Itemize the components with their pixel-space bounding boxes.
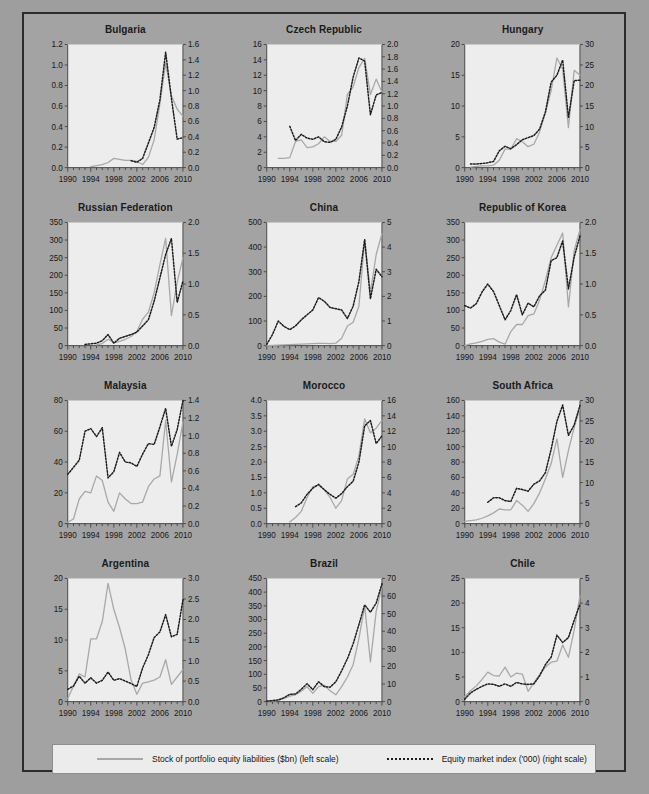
- figure-page: Bulgaria0.00.20.40.60.81.01.20.00.20.40.…: [0, 0, 649, 794]
- svg-text:15: 15: [585, 102, 595, 111]
- svg-text:1.0: 1.0: [585, 280, 597, 289]
- svg-text:0: 0: [387, 698, 392, 707]
- svg-text:1990: 1990: [257, 175, 276, 184]
- svg-text:2: 2: [585, 648, 590, 657]
- svg-text:25: 25: [585, 61, 595, 70]
- svg-text:2006: 2006: [548, 175, 567, 184]
- panel-title: Hungary: [423, 24, 622, 35]
- svg-text:5: 5: [456, 133, 461, 142]
- svg-text:2: 2: [387, 292, 392, 301]
- svg-text:0: 0: [456, 698, 461, 707]
- chart-panel: Morocco0.00.51.01.52.02.53.03.54.0024681…: [225, 374, 424, 552]
- svg-text:10: 10: [585, 123, 595, 132]
- svg-text:2002: 2002: [326, 353, 345, 362]
- svg-text:2010: 2010: [174, 531, 193, 540]
- svg-text:6: 6: [387, 473, 392, 482]
- svg-text:1998: 1998: [105, 353, 124, 362]
- svg-text:1998: 1998: [105, 175, 124, 184]
- svg-text:80: 80: [54, 396, 64, 405]
- svg-text:20: 20: [451, 599, 461, 608]
- svg-text:4: 4: [257, 133, 262, 142]
- svg-text:200: 200: [49, 271, 63, 280]
- plot-area: 0204060800.00.20.40.60.81.01.21.41990199…: [26, 394, 225, 544]
- svg-text:350: 350: [248, 602, 262, 611]
- svg-text:2002: 2002: [525, 709, 544, 718]
- svg-text:2002: 2002: [128, 709, 147, 718]
- svg-text:2006: 2006: [350, 531, 369, 540]
- chart-panel: Hungary051015200510152025301990199419982…: [423, 18, 622, 196]
- svg-text:0.8: 0.8: [188, 102, 200, 111]
- svg-text:150: 150: [447, 289, 461, 298]
- svg-text:10: 10: [451, 102, 461, 111]
- svg-text:1.6: 1.6: [188, 40, 200, 49]
- svg-text:16: 16: [387, 396, 397, 405]
- svg-text:1.4: 1.4: [387, 77, 399, 86]
- panel-title: Argentina: [26, 558, 225, 569]
- svg-text:2010: 2010: [174, 175, 193, 184]
- solid-line-swatch-icon: [97, 754, 143, 764]
- svg-text:1998: 1998: [502, 353, 521, 362]
- plot-area: 0.00.20.40.60.81.01.20.00.20.40.60.81.01…: [26, 38, 225, 188]
- svg-text:100: 100: [248, 670, 262, 679]
- svg-text:8: 8: [387, 458, 392, 467]
- svg-text:0.8: 0.8: [387, 114, 399, 123]
- chart-panel: Russian Federation0501001502002503003500…: [26, 196, 225, 374]
- svg-text:0.8: 0.8: [51, 81, 63, 90]
- svg-text:0.0: 0.0: [387, 164, 399, 173]
- svg-text:1.4: 1.4: [188, 56, 200, 65]
- svg-text:40: 40: [451, 489, 461, 498]
- svg-text:1.0: 1.0: [188, 657, 200, 666]
- svg-text:1994: 1994: [280, 531, 299, 540]
- svg-text:5: 5: [585, 143, 590, 152]
- svg-text:2002: 2002: [326, 531, 345, 540]
- svg-text:450: 450: [248, 574, 262, 583]
- svg-text:0.4: 0.4: [51, 123, 63, 132]
- svg-text:1.0: 1.0: [387, 102, 399, 111]
- panel-title: Malaysia: [26, 380, 225, 391]
- svg-text:30: 30: [585, 40, 595, 49]
- svg-text:3.5: 3.5: [250, 412, 262, 421]
- legend-cell: Stock of portfolio equity liabilities ($…: [26, 730, 622, 770]
- svg-text:2.0: 2.0: [188, 615, 200, 624]
- svg-text:0: 0: [585, 164, 590, 173]
- svg-text:300: 300: [49, 236, 63, 245]
- svg-text:1.0: 1.0: [51, 61, 63, 70]
- svg-text:3: 3: [387, 268, 392, 277]
- svg-text:1994: 1994: [280, 353, 299, 362]
- svg-text:80: 80: [451, 458, 461, 467]
- svg-text:1998: 1998: [303, 175, 322, 184]
- svg-text:4.0: 4.0: [250, 396, 262, 405]
- svg-text:40: 40: [387, 627, 397, 636]
- svg-text:1.2: 1.2: [188, 71, 200, 80]
- svg-text:0.2: 0.2: [188, 502, 200, 511]
- svg-text:100: 100: [447, 443, 461, 452]
- plot-area: 0510152025012345199019941998200220062010: [423, 572, 622, 722]
- svg-text:0.4: 0.4: [188, 133, 200, 142]
- svg-text:250: 250: [447, 254, 461, 263]
- svg-text:0.5: 0.5: [250, 504, 262, 513]
- chart-panel: Malaysia0204060800.00.20.40.60.81.01.21.…: [26, 374, 225, 552]
- svg-text:20: 20: [585, 81, 595, 90]
- svg-text:16: 16: [252, 40, 262, 49]
- plot-area: 0.00.51.01.52.02.53.03.54.00246810121416…: [225, 394, 424, 544]
- panel-title: Brazil: [225, 558, 424, 569]
- svg-text:1.8: 1.8: [387, 53, 399, 62]
- svg-text:2: 2: [257, 148, 262, 157]
- svg-text:50: 50: [54, 324, 64, 333]
- svg-text:2.0: 2.0: [250, 458, 262, 467]
- svg-text:10: 10: [54, 636, 64, 645]
- svg-text:1.6: 1.6: [387, 65, 399, 74]
- plot-area: 0204060801001201401600510152025301990199…: [423, 394, 622, 544]
- svg-text:0.8: 0.8: [188, 449, 200, 458]
- svg-text:5: 5: [585, 499, 590, 508]
- svg-text:1998: 1998: [105, 709, 124, 718]
- svg-text:60: 60: [54, 427, 64, 436]
- legend-entry-solid: Stock of portfolio equity liabilities ($…: [97, 754, 339, 764]
- chart-panel: South Africa0204060801001201401600510152…: [423, 374, 622, 552]
- svg-text:10: 10: [387, 680, 397, 689]
- svg-text:140: 140: [447, 412, 461, 421]
- svg-text:0.0: 0.0: [188, 342, 200, 351]
- svg-text:5: 5: [387, 218, 392, 227]
- svg-text:1998: 1998: [105, 531, 124, 540]
- svg-text:0: 0: [456, 164, 461, 173]
